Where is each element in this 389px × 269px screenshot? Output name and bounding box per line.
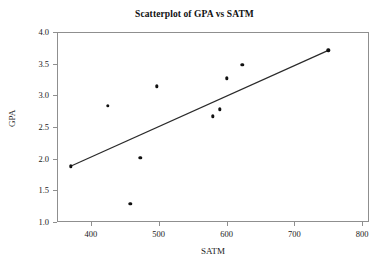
x-tick-mark xyxy=(294,222,295,226)
plot-area xyxy=(57,32,369,222)
x-tick-mark xyxy=(362,222,363,226)
x-tick-mark xyxy=(159,222,160,226)
scatterplot-figure: Scatterplot of GPA vs SATM GPA SATM 1.01… xyxy=(0,0,389,269)
x-tick-label: 400 xyxy=(71,229,111,239)
x-tick-label: 800 xyxy=(342,229,382,239)
x-tick-mark xyxy=(227,222,228,226)
trend-line xyxy=(57,32,369,222)
x-tick-label: 600 xyxy=(207,229,247,239)
x-tick-mark xyxy=(91,222,92,226)
x-tick-label: 700 xyxy=(274,229,314,239)
x-tick-label: 500 xyxy=(139,229,179,239)
